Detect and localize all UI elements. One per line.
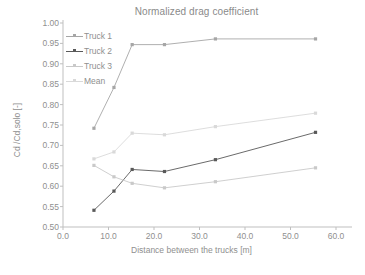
data-point-marker <box>214 158 217 161</box>
legend-marker-icon <box>66 76 83 86</box>
series-truck-2 <box>92 131 317 212</box>
legend-marker-icon <box>66 46 83 56</box>
series-line <box>94 39 316 128</box>
legend-item-mean[interactable]: Mean <box>66 74 112 88</box>
chart-legend: Truck 1Truck 2Truck 3Mean <box>66 29 112 88</box>
data-point-marker <box>314 112 317 115</box>
series-line <box>94 113 316 159</box>
chart-container: Normalized drag coefficient 0.500.550.60… <box>0 0 365 275</box>
data-point-marker <box>112 175 115 178</box>
data-point-marker <box>314 166 317 169</box>
legend-marker-icon <box>66 31 83 41</box>
data-point-marker <box>92 127 95 130</box>
data-point-marker <box>131 168 134 171</box>
legend-item-truck-3[interactable]: Truck 3 <box>66 59 112 73</box>
legend-label: Mean <box>83 76 105 86</box>
data-point-marker <box>163 43 166 46</box>
data-point-marker <box>92 157 95 160</box>
data-point-marker <box>92 164 95 167</box>
data-point-marker <box>163 170 166 173</box>
data-point-marker <box>214 125 217 128</box>
legend-label: Truck 1 <box>83 31 112 41</box>
series-line <box>94 165 316 187</box>
data-point-marker <box>112 150 115 153</box>
data-point-marker <box>314 131 317 134</box>
legend-label: Truck 3 <box>83 61 112 71</box>
data-point-marker <box>112 86 115 89</box>
data-point-marker <box>131 182 134 185</box>
legend-marker-icon <box>66 61 83 71</box>
legend-item-truck-1[interactable]: Truck 1 <box>66 29 112 43</box>
data-point-marker <box>314 37 317 40</box>
legend-label: Truck 2 <box>83 46 112 56</box>
series-line <box>94 132 316 210</box>
data-point-marker <box>163 186 166 189</box>
data-point-marker <box>163 133 166 136</box>
series-mean <box>92 112 317 161</box>
series-truck-1 <box>92 37 317 130</box>
data-point-marker <box>92 209 95 212</box>
data-point-marker <box>112 190 115 193</box>
plot-area <box>0 0 365 275</box>
data-point-marker <box>214 37 217 40</box>
data-point-marker <box>214 180 217 183</box>
legend-item-truck-2[interactable]: Truck 2 <box>66 44 112 58</box>
data-point-marker <box>131 43 134 46</box>
data-point-marker <box>131 132 134 135</box>
